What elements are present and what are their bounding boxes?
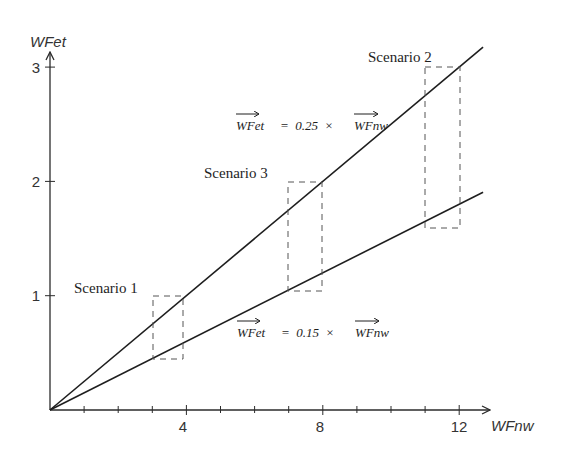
equation-upper-rhs: WFnw	[354, 118, 388, 133]
x-tick-label-4: 4	[179, 418, 187, 435]
x-axis-title: WFnw	[491, 417, 535, 434]
y-tick-label-3: 3	[32, 59, 40, 76]
equation-lower-lhs: WFet	[237, 325, 266, 340]
equation-upper-lhs: WFet	[236, 118, 265, 133]
scenario-1-label: Scenario 1	[74, 280, 138, 296]
x-tick-label-12: 12	[451, 418, 468, 435]
equation-lower-mid: = 0.15 ×	[281, 325, 334, 340]
scenario-2-label: Scenario 2	[368, 49, 432, 65]
equation-lower: WFet = 0.15 × WFnw	[237, 321, 389, 340]
x-tick-label-8: 8	[316, 418, 324, 435]
y-axis-title: WFet	[30, 33, 67, 50]
equation-upper: WFet = 0.25 × WFnw	[236, 114, 388, 133]
equation-lower-rhs: WFnw	[355, 325, 389, 340]
line-slope-015	[50, 192, 483, 410]
scenario-3-box	[288, 182, 322, 291]
y-tick-label-1: 1	[32, 287, 40, 304]
y-tick-label-2: 2	[32, 173, 40, 190]
line-slope-025	[50, 47, 483, 410]
equation-upper-mid: = 0.25 ×	[280, 118, 333, 133]
scenario-1-box	[153, 296, 183, 359]
scenario-3-label: Scenario 3	[204, 165, 268, 181]
wf-chart: 4 8 12 1 2 3 WFet WFnw Scenario 1 Scenar…	[0, 0, 568, 462]
